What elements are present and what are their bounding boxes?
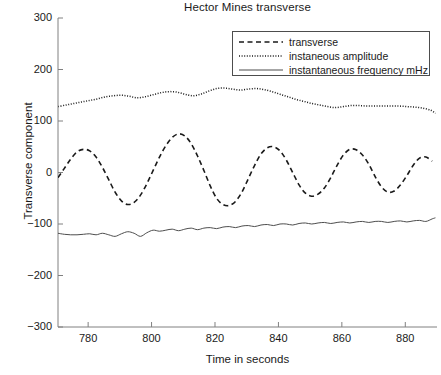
legend-item[interactable]: instantaneous frequency mHz — [233, 63, 429, 77]
legend-label: instaneous amplitude — [289, 50, 388, 62]
legend-line-sample-dashed-icon — [238, 36, 284, 48]
figure-canvas: Hector Mines transverse Transverse compo… — [0, 0, 441, 375]
x-axis-ticks — [88, 322, 405, 327]
series-line-1 — [58, 88, 435, 113]
series-line-0 — [58, 134, 432, 206]
legend-item[interactable]: instaneous amplitude — [233, 49, 429, 63]
legend-line-sample-dotted-icon — [238, 50, 284, 62]
series-line-2 — [58, 218, 435, 237]
data-series-group — [58, 88, 435, 236]
legend-line-sample-solid-icon — [238, 64, 284, 76]
legend: transverseinstaneous amplitudeinstantane… — [232, 31, 430, 76]
legend-label: instantaneous frequency mHz — [289, 64, 428, 76]
legend-item[interactable]: transverse — [233, 35, 429, 49]
y-axis-ticks — [58, 18, 63, 327]
legend-label: transverse — [289, 36, 338, 48]
